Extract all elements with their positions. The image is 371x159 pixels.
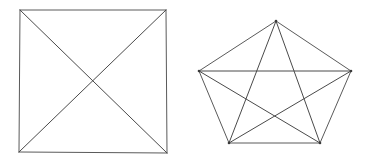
vertex-P1 [275, 20, 278, 23]
canvas-background [0, 0, 371, 159]
vertex-P3 [319, 142, 322, 145]
vertex-P2 [350, 70, 353, 73]
vertex-P5 [198, 70, 201, 73]
vertex-P4 [228, 142, 231, 145]
geometry-figure-canvas [0, 0, 371, 159]
